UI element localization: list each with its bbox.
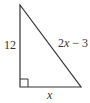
vertical-leg-label: 12: [4, 38, 16, 52]
right-angle-marker: [20, 79, 28, 87]
horizontal-leg-label: x: [46, 88, 53, 102]
hypotenuse-label: 2x − 3: [58, 36, 88, 50]
right-triangle-diagram: 12 2x − 3 x: [0, 0, 90, 103]
hypotenuse-rest: − 3: [69, 36, 88, 50]
